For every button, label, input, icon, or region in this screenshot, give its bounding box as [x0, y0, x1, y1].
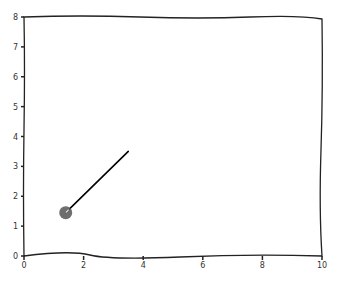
x-tick-label: 4 — [141, 261, 146, 270]
x-tick-label: 10 — [317, 261, 327, 270]
y-tick-label: 4 — [13, 133, 18, 142]
x-tick-label: 6 — [200, 261, 205, 270]
y-axis-ticks: 012345678 — [13, 13, 24, 261]
y-tick-label: 1 — [13, 222, 18, 231]
y-tick-label: 2 — [13, 192, 18, 201]
x-tick-label: 2 — [81, 261, 86, 270]
x-tick-label: 8 — [260, 261, 265, 270]
line-segment — [66, 151, 129, 212]
chart: 012345678 0246810 — [0, 0, 337, 286]
y-tick-label: 0 — [13, 252, 18, 261]
y-tick-label: 3 — [13, 162, 18, 171]
x-tick-label: 0 — [21, 261, 26, 270]
y-tick-label: 6 — [13, 73, 18, 82]
plot-area — [59, 151, 128, 219]
x-axis-ticks: 0246810 — [21, 256, 327, 270]
axes-frame — [24, 16, 323, 258]
y-tick-label: 5 — [13, 103, 18, 112]
y-tick-label: 8 — [13, 13, 18, 22]
y-tick-label: 7 — [13, 43, 18, 52]
